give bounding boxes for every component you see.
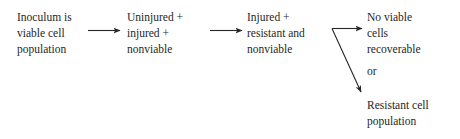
resistant-population-line-1: Resistant cell (367, 97, 429, 113)
inoculum-node: Inoculum is viable cell population (17, 9, 72, 57)
injured-node-line-2: resistant and (247, 25, 305, 41)
uninjured-node-line-1: Uninjured + (127, 9, 183, 25)
or-label: or (367, 63, 377, 79)
injured-resistant-nonviable-node: Injured + resistant and nonviable (247, 9, 305, 57)
no-viable-cells-line-3: recoverable (367, 41, 421, 57)
resistant-population-line-2: population (367, 113, 429, 129)
inoculum-node-line-2: viable cell (17, 25, 72, 41)
inoculum-node-line-3: population (17, 41, 72, 57)
injured-node-line-1: Injured + (247, 9, 305, 25)
no-viable-cells-line-1: No viable (367, 9, 421, 25)
resistant-cell-population-node: Resistant cell population (367, 97, 429, 129)
arrow-injured-to-resistant-population (332, 29, 361, 93)
no-viable-cells-node: No viable cells recoverable (367, 9, 421, 57)
flowchart-diagram: Inoculum is viable cell population Uninj… (0, 0, 460, 139)
uninjured-node-line-3: nonviable (127, 41, 183, 57)
no-viable-cells-line-2: cells (367, 25, 421, 41)
injured-node-line-3: nonviable (247, 41, 305, 57)
uninjured-injured-nonviable-node: Uninjured + injured + nonviable (127, 9, 183, 57)
inoculum-node-line-1: Inoculum is (17, 9, 72, 25)
uninjured-node-line-2: injured + (127, 25, 183, 41)
